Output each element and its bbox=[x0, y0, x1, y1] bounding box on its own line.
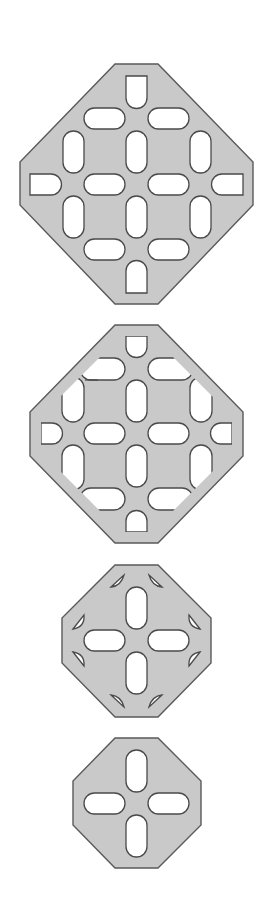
plate-2-slot-bottom bbox=[126, 511, 147, 533]
plate-3-slot-left bbox=[84, 630, 125, 651]
plate-2 bbox=[30, 325, 243, 543]
plate-1-slot-h3 bbox=[84, 174, 125, 195]
plate-2-slot-top bbox=[126, 336, 147, 358]
plate-1-slot-v1 bbox=[63, 131, 84, 173]
plate-4-slot-top bbox=[126, 750, 147, 792]
plate-1-slot-h1 bbox=[84, 108, 125, 129]
plate-1-slot-top bbox=[126, 76, 147, 109]
plate-2-slot-h3 bbox=[84, 423, 125, 444]
plate-4-slot-bottom bbox=[126, 815, 147, 857]
plate-1-slot-v5 bbox=[126, 196, 147, 238]
plate-1-slot-left bbox=[30, 174, 62, 195]
plate-4-slot-right bbox=[148, 793, 189, 814]
plate-1-slot-right bbox=[212, 174, 244, 195]
plate-3-slot-right bbox=[148, 630, 189, 651]
plate-1-slot-v4 bbox=[63, 196, 84, 238]
plate-1-slot-bottom bbox=[126, 261, 147, 294]
plate-1 bbox=[20, 64, 253, 304]
plate-1-slot-v6 bbox=[190, 196, 211, 238]
plate-2-slot-right bbox=[211, 423, 233, 444]
plate-3-slot-bottom bbox=[126, 652, 147, 694]
plate-2-slot-v5 bbox=[126, 445, 147, 487]
plate-1-slot-h2 bbox=[148, 108, 189, 129]
plate-4 bbox=[73, 738, 201, 868]
plate-2-slot-v2 bbox=[126, 380, 147, 422]
octagonal-plates-diagram bbox=[0, 0, 275, 905]
plate-1-slot-h6 bbox=[148, 239, 189, 260]
plate-1-slot-v3 bbox=[190, 131, 211, 173]
plate-1-slot-v2 bbox=[126, 131, 147, 173]
plate-1-slot-h5 bbox=[84, 239, 125, 260]
plate-1-slot-h4 bbox=[148, 174, 189, 195]
plate-4-slot-left bbox=[84, 793, 125, 814]
plate-2-slot-left bbox=[41, 423, 63, 444]
plate-3 bbox=[62, 565, 211, 717]
plate-2-slot-h4 bbox=[148, 423, 189, 444]
plate-3-slot-top bbox=[126, 587, 147, 629]
